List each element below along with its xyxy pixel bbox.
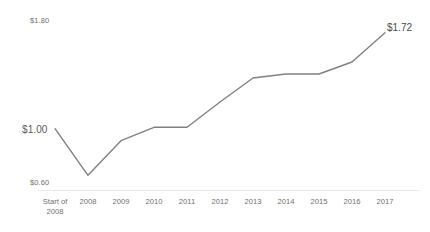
- end-value-label: $1.72: [387, 22, 412, 33]
- line-chart-plot: [0, 0, 430, 232]
- chart-container: $1.80 $1.00 $0.60 Start of 2008200820092…: [0, 0, 430, 232]
- data-series-line: [55, 33, 385, 176]
